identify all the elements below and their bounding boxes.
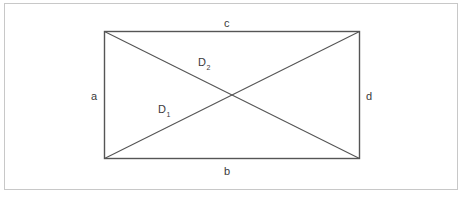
side-label-right: d — [366, 91, 372, 102]
diagram-canvas: c b a d D2 D1 — [0, 0, 466, 199]
diagonal-d2-base: D — [198, 56, 206, 68]
rectangle-diagonals-figure — [0, 0, 466, 199]
diagonal-d1-base: D — [158, 103, 166, 115]
diagonal-label-d1: D1 — [158, 104, 170, 117]
side-label-bottom: b — [224, 166, 230, 177]
side-label-top: c — [224, 18, 230, 29]
side-label-left: a — [91, 91, 97, 102]
diagonal-d2-subscript: 2 — [206, 64, 210, 71]
diagonal-d1-subscript: 1 — [166, 111, 170, 118]
diagonal-label-d2: D2 — [198, 57, 210, 70]
